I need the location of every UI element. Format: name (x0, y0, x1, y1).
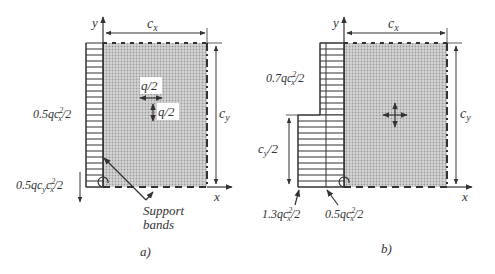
moment-pointer-inner-b (327, 190, 338, 205)
y-axis-label-b: y (331, 15, 339, 30)
load-h-label: q/2 (141, 78, 158, 93)
dimension-half-cy-label-b: cy/2 (258, 141, 278, 158)
dimension-cy-label-a: cy (219, 106, 230, 123)
moment-diagram-b (298, 43, 344, 187)
load-v-label: q/2 (158, 104, 175, 119)
dimension-cx-label-a: cx (147, 16, 158, 33)
moment-top-label-a: 0.5qc2x/2 (33, 106, 71, 123)
plate-a (103, 43, 207, 187)
moment-pointer-outer-b (295, 190, 299, 205)
moment-upper-label-b: 0.7qc2x/2 (266, 70, 304, 87)
moment-bottom-label-a: 0.5qcyc2x/2 (16, 177, 63, 194)
figure-b: y x cx cy cy/2 0.7qc2x/2 1.3qc2x/2 0.5qc… (258, 15, 472, 256)
support-label-line1: Support (143, 203, 185, 218)
y-axis-label-a: y (90, 15, 98, 30)
dimension-cx-label-b: cx (388, 16, 399, 33)
support-label-line2: bands (143, 217, 174, 232)
dimension-cy-label-b: cy (460, 106, 471, 123)
figure-a: y x cx cy q/2 q/2 0.5qc2x/2 0.5qcyc2x/2 … (16, 15, 232, 259)
x-axis-label-a: x (213, 189, 220, 204)
caption-a: a) (140, 244, 151, 259)
x-axis-label-b: x (461, 189, 468, 204)
moment-lower-outer-label-b: 1.3qc2x/2 (262, 206, 300, 223)
support-pointer-a (146, 192, 153, 200)
moment-diagram-a (86, 43, 103, 187)
strip-method-diagram: y x cx cy q/2 q/2 0.5qc2x/2 0.5qcyc2x/2 … (0, 0, 495, 274)
caption-b: b) (381, 241, 392, 256)
moment-lower-inner-label-b: 0.5qc2x/2 (325, 206, 363, 223)
